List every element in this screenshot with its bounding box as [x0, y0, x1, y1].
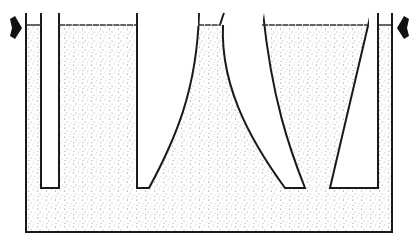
left-probe [41, 13, 59, 188]
right-arrow-icon [397, 16, 409, 39]
tank-diagram [0, 0, 416, 241]
liquid-fill [27, 25, 391, 231]
diagram-canvas [0, 0, 416, 241]
left-arrow-icon [10, 16, 22, 39]
